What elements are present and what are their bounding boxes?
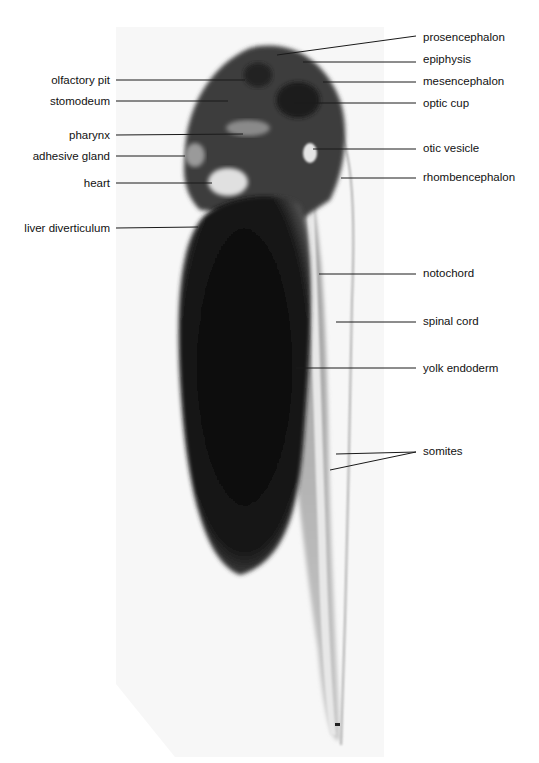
label-optic-cup: optic cup	[423, 96, 469, 110]
label-yolk-endoderm: yolk endoderm	[423, 361, 498, 375]
label-olfactory-pit: olfactory pit	[51, 73, 110, 87]
label-somites: somites	[423, 444, 463, 458]
yolk-mass	[179, 196, 311, 575]
label-rhombencephalon: rhombencephalon	[423, 170, 515, 184]
heart-shape	[208, 168, 248, 196]
label-notochord: notochord	[423, 266, 474, 280]
label-mesencephalon: mesencephalon	[423, 74, 504, 88]
label-liver-diverticulum: liver diverticulum	[24, 221, 110, 235]
embryo-illustration	[0, 0, 539, 763]
label-prosencephalon: prosencephalon	[423, 30, 505, 44]
label-epiphysis: epiphysis	[423, 52, 471, 66]
embryo-figure: olfactory pit stomodeum pharynx adhesive…	[0, 0, 539, 763]
label-heart: heart	[84, 176, 110, 190]
otic-vesicle-shape	[303, 143, 317, 163]
label-stomodeum: stomodeum	[50, 94, 110, 108]
label-adhesive-gland: adhesive gland	[33, 149, 110, 163]
label-spinal-cord: spinal cord	[423, 314, 479, 328]
label-pharynx: pharynx	[69, 128, 110, 142]
label-otic-vesicle: otic vesicle	[423, 141, 479, 155]
